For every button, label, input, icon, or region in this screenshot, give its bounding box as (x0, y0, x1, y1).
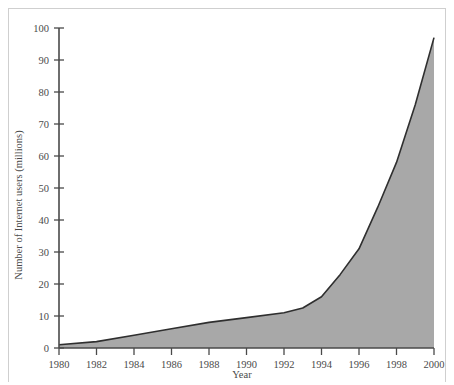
x-tick-label: 2000 (424, 359, 445, 370)
area-series-internet-users (59, 38, 434, 348)
y-tick-label: 0 (44, 343, 49, 354)
y-axis: 0102030405060708090100 (33, 23, 64, 354)
x-tick-label: 1980 (49, 359, 70, 370)
x-axis-ticks: 1980198219841986198819901992199419961998… (49, 348, 445, 370)
x-tick-label: 1984 (124, 359, 146, 370)
y-tick-label: 30 (39, 247, 50, 258)
x-tick-label: 1986 (161, 359, 182, 370)
y-tick-label: 20 (39, 279, 50, 290)
y-tick-label: 50 (39, 183, 50, 194)
y-tick-label: 100 (33, 23, 49, 34)
x-tick-label: 1996 (349, 359, 370, 370)
x-tick-label: 1988 (199, 359, 220, 370)
y-tick-label: 80 (39, 87, 50, 98)
y-axis-title: Number of Internet users (millions) (13, 130, 25, 280)
y-tick-label: 10 (39, 311, 50, 322)
x-axis: 1980198219841986198819901992199419961998… (49, 348, 445, 370)
plot-group (59, 38, 434, 348)
x-tick-label: 1992 (274, 359, 295, 370)
internet-users-area-chart: 0102030405060708090100 19801982198419861… (0, 0, 454, 385)
y-tick-label: 40 (39, 215, 50, 226)
y-tick-label: 60 (39, 151, 50, 162)
x-tick-label: 1982 (86, 359, 107, 370)
y-tick-label: 90 (39, 55, 50, 66)
figure-page: 0102030405060708090100 19801982198419861… (0, 0, 454, 385)
y-tick-label: 70 (39, 119, 50, 130)
x-axis-title: Year (232, 369, 252, 380)
x-tick-label: 1998 (386, 359, 407, 370)
x-tick-label: 1994 (311, 359, 333, 370)
